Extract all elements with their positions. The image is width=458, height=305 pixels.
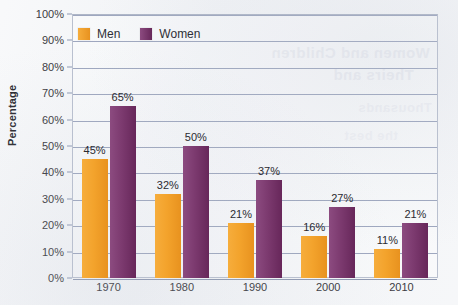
bar-men-1980[interactable]: 32% (155, 194, 181, 278)
bar-value-label: 21% (404, 208, 426, 220)
bar-value-label: 32% (157, 179, 179, 191)
bar-women-1990[interactable]: 37% (256, 180, 282, 278)
x-axis-tick-label-1990: 1990 (243, 281, 267, 293)
y-axis-tick-label: 20% (42, 219, 64, 231)
scanned-page-background: Women and Children Theirs and Thousands … (0, 0, 458, 305)
bar-value-label: 37% (258, 165, 280, 177)
y-axis-tick-label: 30% (42, 193, 64, 205)
y-axis-tick-label: 40% (42, 166, 64, 178)
x-axis-tick-label-2010: 2010 (389, 281, 413, 293)
bar-men-2010[interactable]: 11% (374, 249, 400, 278)
bar-group: 11%21% (374, 14, 428, 278)
bar-group: 21%37% (228, 14, 282, 278)
bar-value-label: 27% (331, 192, 353, 204)
legend-item-women: Women (140, 27, 200, 41)
bar-men-1970[interactable]: 45% (82, 159, 108, 278)
y-axis-tick-label: 50% (42, 140, 64, 152)
bar-women-1980[interactable]: 50% (183, 146, 209, 278)
y-axis-tick-label: 10% (42, 246, 64, 258)
bar-women-1970[interactable]: 65% (110, 106, 136, 278)
legend-item-men: Men (78, 27, 120, 41)
bar-value-label: 50% (185, 131, 207, 143)
x-axis-tick-label-1980: 1980 (170, 281, 194, 293)
legend-swatch-women-icon (140, 28, 152, 40)
bar-men-2000[interactable]: 16% (301, 236, 327, 278)
y-axis-tick-label: 60% (42, 114, 64, 126)
bar-value-label: 45% (84, 144, 106, 156)
y-axis-labels: 0%10%20%30%40%50%60%70%80%90%100% (0, 14, 72, 278)
bar-group: 16%27% (301, 14, 355, 278)
legend-label-women: Women (159, 27, 200, 41)
chart-legend: Men Women (78, 27, 200, 41)
y-axis-tick-label: 0% (48, 272, 64, 284)
gridline (73, 279, 437, 280)
x-axis-labels: 19701980199020002010 (72, 281, 438, 301)
bar-value-label: 16% (303, 221, 325, 233)
bar-group: 32%50% (155, 14, 209, 278)
x-axis-tick-label-2000: 2000 (316, 281, 340, 293)
y-axis-tick-label: 90% (42, 34, 64, 46)
y-axis-tick-label: 100% (36, 8, 64, 20)
bar-women-2000[interactable]: 27% (329, 207, 355, 278)
bar-value-label: 65% (112, 91, 134, 103)
bar-group: 45%65% (82, 14, 136, 278)
bar-men-1990[interactable]: 21% (228, 223, 254, 278)
legend-swatch-men-icon (78, 28, 90, 40)
y-axis-tick-label: 80% (42, 61, 64, 73)
bar-women-2010[interactable]: 21% (402, 223, 428, 278)
y-axis-tick-label: 70% (42, 87, 64, 99)
bar-value-label: 11% (377, 234, 398, 246)
legend-label-men: Men (97, 27, 120, 41)
chart-bars-area: 45%65%32%50%21%37%16%27%11%21% (72, 14, 438, 278)
bar-value-label: 21% (230, 208, 252, 220)
x-axis-tick-label-1970: 1970 (96, 281, 120, 293)
